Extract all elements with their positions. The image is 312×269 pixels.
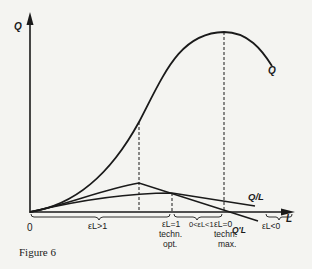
y-axis-arrow-icon: [27, 12, 34, 25]
label-unit-elastic: εL=1: [162, 219, 180, 229]
label-region-negative: εL<0: [262, 221, 280, 231]
label-region-elastic: εL>1: [88, 221, 107, 231]
label-techn-opt-1: techn.: [159, 229, 182, 239]
label-zero-elasticity: εL=0: [214, 219, 232, 229]
label-total-product: Q: [268, 65, 276, 76]
production-function-diagram: Q L 0 Q Q/L Q'L εL>1 εL=1 techn. opt. 0<…: [0, 0, 312, 269]
origin-label: 0: [27, 222, 33, 233]
brace-region-1: [31, 214, 170, 220]
label-techn-max-2: max.: [218, 239, 236, 249]
label-region-inelastic: 0<εL<1: [189, 220, 214, 229]
x-axis-label: L: [286, 213, 292, 224]
label-techn-opt-2: opt.: [163, 239, 177, 249]
curve-total-product: [30, 32, 272, 212]
y-axis-label: Q: [14, 21, 22, 32]
label-techn-max-1: techn.: [214, 229, 237, 239]
figure-caption: Figure 6: [19, 246, 56, 258]
label-average-product: Q/L: [248, 191, 264, 202]
